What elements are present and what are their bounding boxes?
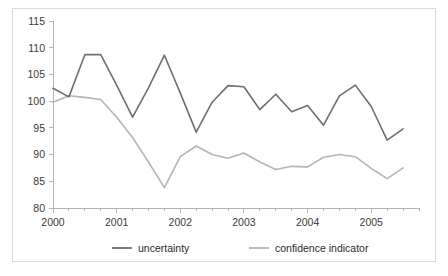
y-tick-label: 95 [33, 122, 45, 134]
x-tick-label: 2000 [41, 216, 65, 228]
y-tick-label: 105 [27, 68, 45, 80]
plot-wrapper: 8085909510010511011520002001200220032004… [13, 9, 437, 263]
y-tick-label: 80 [33, 202, 45, 214]
legend-label-uncertainty: uncertainty [138, 242, 190, 254]
y-tick-label: 115 [28, 15, 45, 27]
line-chart: 8085909510010511011520002001200220032004… [13, 9, 437, 263]
chart-figure: 8085909510010511011520002001200220032004… [12, 8, 436, 262]
x-tick-label: 2004 [296, 216, 320, 228]
x-tick-label: 2001 [105, 216, 129, 228]
x-tick-label: 2003 [232, 216, 256, 228]
series-line-confidence-indicator [53, 96, 403, 188]
x-tick-label: 2005 [360, 216, 384, 228]
legend-label-confidence-indicator: confidence indicator [275, 242, 369, 254]
y-tick-label: 85 [33, 175, 45, 187]
series-line-uncertainty [53, 55, 403, 140]
y-tick-label: 110 [28, 42, 45, 54]
x-tick-label: 2002 [169, 216, 193, 228]
y-tick-label: 100 [27, 95, 45, 107]
y-tick-label: 90 [33, 148, 45, 160]
